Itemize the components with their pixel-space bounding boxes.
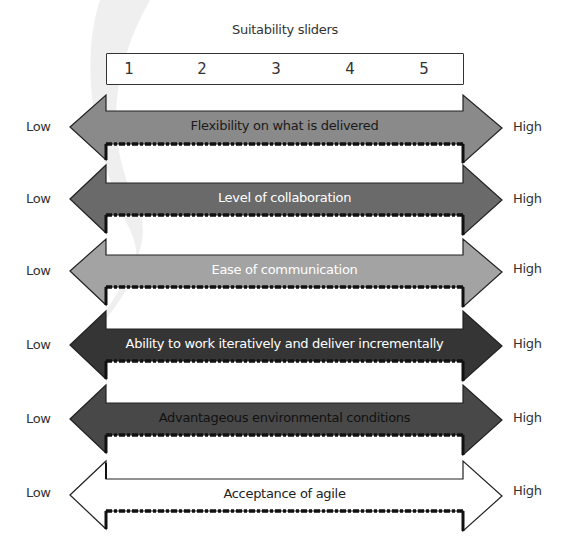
slider-label: Ease of communication bbox=[106, 262, 463, 277]
high-label: High bbox=[513, 483, 542, 498]
slider-label: Acceptance of agile bbox=[106, 486, 463, 501]
slider-row-acceptance: Low Acceptance of agile High bbox=[0, 455, 570, 535]
slider-row-iterative: Low Ability to work iteratively and deli… bbox=[0, 305, 570, 385]
scale-box: 1 2 3 4 5 bbox=[106, 53, 464, 85]
chart-title: Suitability sliders bbox=[0, 22, 570, 37]
scale-value-4: 4 bbox=[345, 60, 355, 78]
slider-label: Advantageous environmental conditions bbox=[106, 410, 463, 425]
scale-value-2: 2 bbox=[197, 60, 207, 78]
slider-row-flexibility: Low Flexibility on what is delivered Hig… bbox=[0, 87, 570, 167]
high-label: High bbox=[513, 119, 542, 134]
slider-label: Flexibility on what is delivered bbox=[106, 118, 463, 133]
slider-label: Level of collaboration bbox=[106, 190, 463, 205]
slider-label: Ability to work iteratively and deliver … bbox=[106, 336, 463, 351]
high-label: High bbox=[513, 261, 542, 276]
scale-value-1: 1 bbox=[124, 60, 134, 78]
slider-row-communication: Low Ease of communication High bbox=[0, 231, 570, 311]
high-label: High bbox=[513, 191, 542, 206]
high-label: High bbox=[513, 336, 542, 351]
high-label: High bbox=[513, 410, 542, 425]
slider-row-collaboration: Low Level of collaboration High bbox=[0, 159, 570, 239]
slider-row-environment: Low Advantageous environmental condition… bbox=[0, 379, 570, 459]
scale-value-3: 3 bbox=[271, 60, 281, 78]
scale-value-5: 5 bbox=[419, 60, 429, 78]
